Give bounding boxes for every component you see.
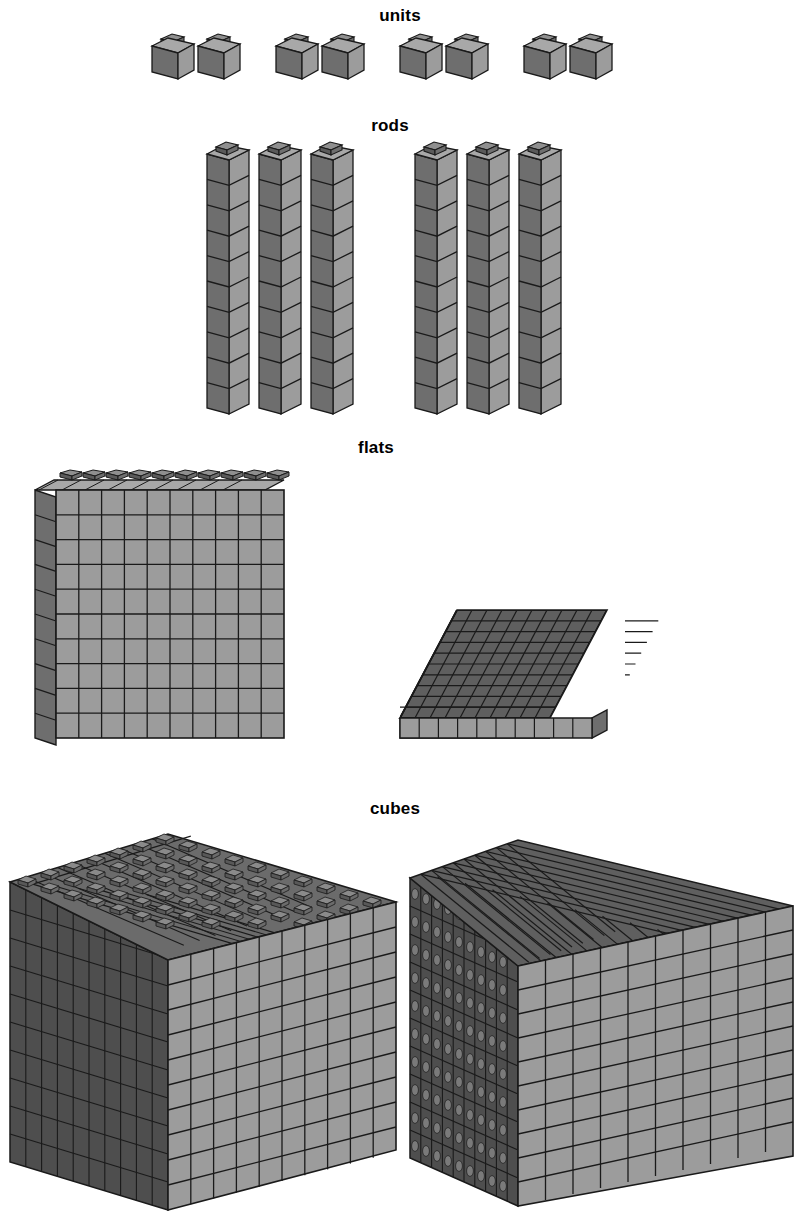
cube-left <box>8 832 398 1232</box>
base-ten-blocks-figure: units <box>0 0 800 1232</box>
flat-lying-svg <box>385 600 625 750</box>
section-label-flats: flats <box>0 438 752 458</box>
flat-lying <box>385 600 625 750</box>
cube-right-svg <box>408 838 798 1232</box>
cube-left-svg <box>8 832 398 1232</box>
units-row <box>150 26 650 88</box>
rods-row <box>205 138 585 418</box>
cube-right <box>408 838 798 1232</box>
section-label-rods: rods <box>0 116 780 136</box>
section-label-cubes: cubes <box>0 799 790 819</box>
flat-upright <box>30 470 300 745</box>
section-label-units: units <box>0 6 800 26</box>
rods-svg <box>205 138 585 418</box>
flat-upright-svg <box>30 470 300 745</box>
units-svg <box>150 26 650 88</box>
